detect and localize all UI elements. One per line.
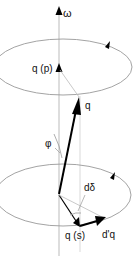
phi-arc bbox=[54, 134, 62, 158]
lower-orbit bbox=[0, 164, 131, 226]
dq-vector bbox=[80, 221, 97, 226]
d-delta-arc bbox=[70, 213, 81, 215]
q-s-plus-dq-line bbox=[59, 195, 104, 218]
d-prime-q-label: d'q bbox=[102, 230, 115, 240]
d-delta-label: dδ bbox=[84, 183, 95, 193]
q-p-arrow-icon bbox=[56, 63, 63, 72]
omega-label: ω bbox=[63, 8, 72, 19]
precession-diagram bbox=[0, 0, 140, 256]
q-vector bbox=[59, 110, 76, 194]
omega-arrow-icon bbox=[56, 6, 63, 15]
q-s-label: q (s) bbox=[65, 231, 85, 241]
q-label: q bbox=[85, 101, 91, 111]
q-p-to-q-line bbox=[60, 70, 79, 97]
q-p-label: q (p) bbox=[32, 64, 53, 74]
dq-arrow-icon bbox=[95, 216, 106, 226]
upper-orbit bbox=[0, 39, 132, 95]
phi-label: φ bbox=[45, 139, 51, 149]
d-delta-leader bbox=[78, 195, 85, 211]
